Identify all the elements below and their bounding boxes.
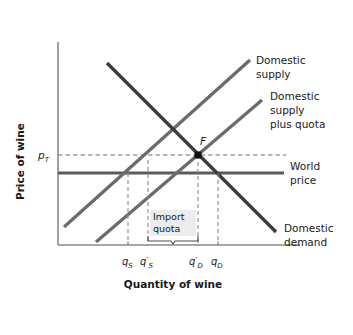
domestic-supply-plus-quota-label-line3: plus quota [270,118,325,130]
equilibrium-point-label: F [200,135,207,147]
domestic-demand-label-line2: demand [284,236,327,248]
domestic-supply-label-line2: supply [256,68,291,80]
import-quota-label-line2: quota [153,223,180,234]
x-axis-title: Quantity of wine [124,278,222,290]
world-price-label-line1: World [290,160,320,172]
domestic-supply-plus-quota-label-line1: Domestic [270,90,320,102]
domestic-demand-label-line1: Domestic [284,222,334,234]
domestic-supply-label-line1: Domestic [256,54,306,66]
world-price-label-line2: price [290,174,316,186]
equilibrium-point-marker [195,152,202,159]
domestic-supply-plus-quota-label-line2: supply [270,104,305,116]
y-axis-title: Price of wine [14,123,26,200]
supply-demand-quota-diagram: Import quota F pT Price of wine Quantity… [0,0,353,335]
import-quota-label-line1: Import [153,211,185,222]
